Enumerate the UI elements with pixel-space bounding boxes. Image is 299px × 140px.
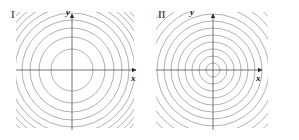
panel-2-label: II [158,9,165,20]
figure-contour-plots: I y x II y x [0,0,299,140]
panel-1-label: I [11,9,15,20]
panel-1-y-axis-label: y [66,8,70,17]
panel-2-x-axis-label: x [256,74,261,83]
panel-2: II y x [150,0,299,140]
panel-2-axes [156,14,262,130]
panel-1-x-axis-label: x [131,74,136,83]
panel-2-y-axis-label: y [190,8,194,17]
panel-2-plot [150,0,299,140]
panel-1-plot [0,0,149,140]
panel-1: I y x [0,0,149,140]
